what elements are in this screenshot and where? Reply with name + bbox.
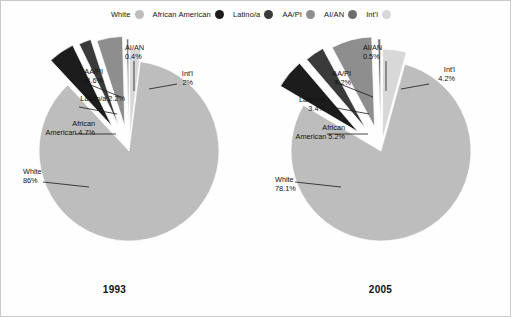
callout-aapi-2005: AA/PI 7.2%: [289, 69, 351, 87]
chart-legend: White African American Latino/a AA/PI AI…: [1, 10, 510, 19]
legend-item-aapi: AA/PI: [282, 10, 315, 19]
legend-dot-icon-aian: [348, 10, 357, 19]
legend-item-white: White: [111, 10, 144, 19]
callout-aian-2005: AI/AN 0.5%: [363, 43, 413, 61]
legend-dot-icon-white: [135, 10, 144, 19]
callout-african-american-2005: African American 5.2%: [253, 123, 345, 141]
legend-label-latino: Latino/a: [233, 10, 261, 19]
callout-white-1993: White 86%: [23, 167, 75, 185]
legend-item-african-american: African American: [153, 10, 224, 19]
legend-item-intl: Int'l: [366, 10, 391, 19]
chart-frame: White African American Latino/a AA/PI AI…: [0, 0, 511, 317]
legend-dot-icon-aapi: [306, 10, 315, 19]
legend-label-white: White: [111, 10, 131, 19]
legend-label-african-american: African American: [153, 10, 211, 19]
legend-label-aapi: AA/PI: [282, 10, 302, 19]
legend-dot-icon-latino: [264, 10, 273, 19]
pie-svg-1993: [1, 27, 256, 277]
callout-aapi-1993: AA/PI 4.6%: [41, 67, 103, 85]
callout-intl-1993: Int'l 2%: [141, 69, 193, 87]
legend-dot-icon-intl: [382, 10, 391, 19]
legend-dot-icon-african-american: [215, 10, 224, 19]
callout-aian-1993: AI/AN 0.4%: [125, 43, 175, 61]
year-label-2005: 2005: [253, 284, 508, 295]
pie-chart-2005: African American 5.2% Latino/a 3.4% AA/P…: [253, 27, 508, 317]
pie-chart-1993: African American 4.7% Latino/a 2.2% AA/P…: [1, 27, 256, 317]
callout-white-2005: White 78.1%: [275, 175, 327, 193]
year-label-1993: 1993: [0, 284, 242, 295]
callout-african-american-1993: African American 4.7%: [3, 119, 95, 137]
legend-label-aian: AI/AN: [324, 10, 344, 19]
callout-latino-1993: Latino/a 2.2%: [3, 94, 125, 103]
legend-item-latino: Latino/a: [233, 10, 274, 19]
pie-svg-2005: [253, 27, 508, 277]
legend-label-intl: Int'l: [366, 10, 378, 19]
callout-intl-2005: Int'l 4.2%: [403, 65, 455, 83]
callout-latino-2005: Latino/a 3.4%: [267, 95, 325, 113]
legend-item-aian: AI/AN: [324, 10, 357, 19]
